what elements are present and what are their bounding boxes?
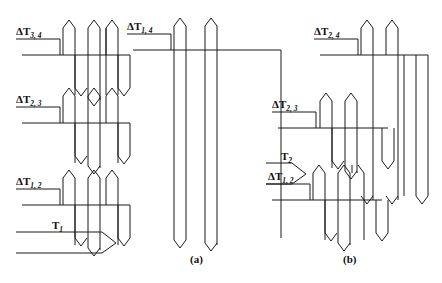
finger-tip [75,123,87,164]
finger-down [118,205,130,246]
delta-symbol: ΔT [16,175,30,187]
delta-symbol: ΔT [16,25,30,37]
label-lead-34 [16,39,60,55]
label-delta-t-1-2-b: ΔT1, 2 [268,170,293,185]
delta-symbol: ΔT [268,170,282,182]
finger [320,93,332,168]
panel-a-section-14 [127,18,281,251]
subscript: 2, 3 [286,104,297,113]
delta-symbol: ΔT [127,20,141,32]
caption-a: (a) [190,253,203,265]
finger-edge-tip [358,165,364,173]
finger-long-tip [205,50,217,251]
finger-tip [75,205,87,246]
finger-tip [75,55,87,96]
finger [345,93,357,173]
label-delta-t-1-4: ΔT1, 4 [127,20,152,35]
subscript: 2, 3 [30,99,41,108]
finger [106,88,118,163]
label-lead-12 [16,189,60,205]
label-lead-23 [16,107,60,123]
subscript: 2 [288,156,292,165]
subscript: 1, 2 [282,176,293,185]
label-lead-23-b [272,112,316,128]
finger-long [205,18,217,245]
finger-long [386,20,398,200]
label-delta-t-1-2-a: ΔT1, 2 [16,175,41,190]
finger-down [376,200,388,241]
label-delta-t-2-3-a: ΔT2, 3 [16,93,41,108]
subscript: 1 [59,225,63,234]
label-lead-12-b [266,184,310,200]
caption-b: (b) [343,253,356,265]
finger [313,165,325,240]
finger [88,170,100,250]
finger [63,170,75,245]
label-lead-24 [314,39,358,55]
finger-down [118,55,130,96]
delta-symbol: ΔT [16,93,30,105]
finger-down [118,123,130,164]
finger-long [174,18,186,248]
finger-tip [325,200,337,241]
label-delta-t-3-4: ΔT3, 4 [16,25,41,40]
subscript: 1, 4 [141,26,152,35]
finger [338,165,350,245]
panel-b-section-24 [314,20,428,204]
finger [106,20,118,95]
t1-feed-line [16,232,116,253]
idt-figure [0,0,442,283]
t1-feed-lower [16,243,116,253]
finger [106,170,118,245]
finger-down [416,55,428,204]
finger-tip [332,128,344,169]
finger-tip [345,148,357,179]
finger-long [361,20,373,200]
label-delta-t-2-3-b: ΔT2, 3 [272,98,297,113]
finger [63,20,75,95]
delta-symbol: ΔT [272,98,286,110]
finger-tip [88,75,100,106]
finger-tip [88,225,100,256]
finger [63,88,75,163]
subscript: 1, 2 [30,181,41,190]
label-t-1: T1 [52,219,63,234]
label-delta-t-2-4: ΔT2, 4 [314,25,339,40]
finger-down [382,128,394,169]
delta-symbol: ΔT [314,25,328,37]
label-t-2: T2 [281,150,292,165]
subscript: 2, 4 [328,31,339,40]
label-lead-14 [127,34,171,50]
subscript: 3, 4 [30,31,41,40]
t1-feed-upper [16,232,116,243]
finger-tip [338,220,350,251]
